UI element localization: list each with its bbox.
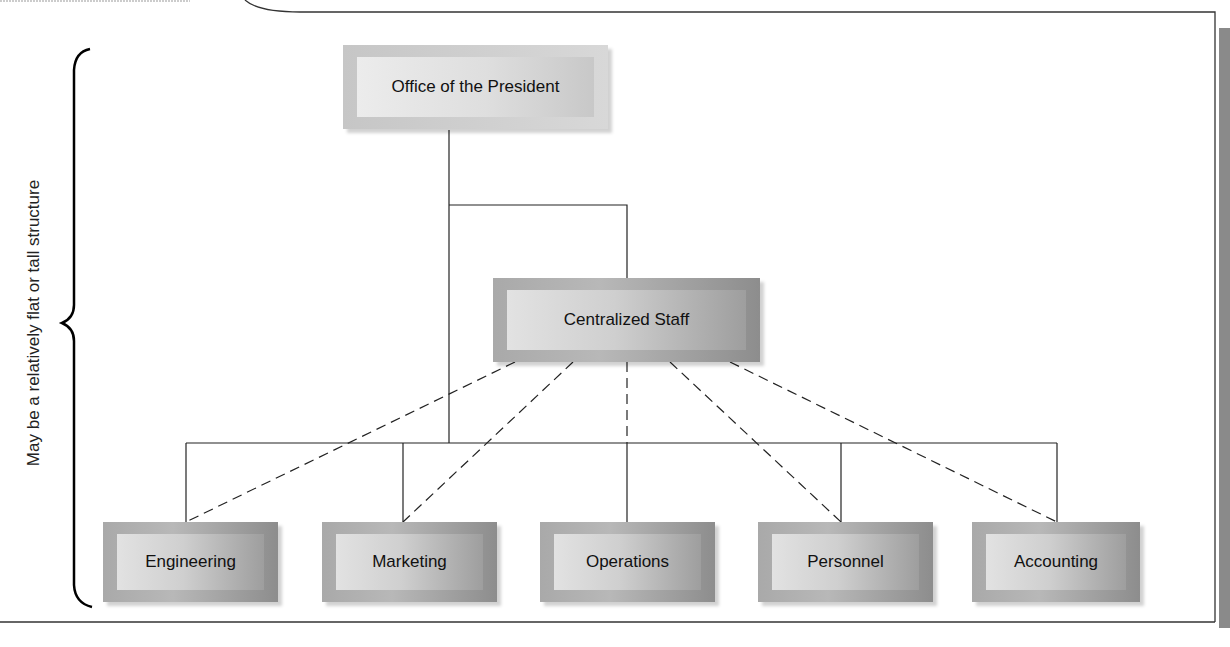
node-centralized-staff: Centralized Staff [493, 278, 760, 362]
structure-note: May be a relatively flat or tall structu… [24, 180, 44, 466]
node-label: Centralized Staff [564, 310, 689, 330]
node-engineering: Engineering [103, 522, 278, 602]
node-marketing: Marketing [322, 522, 497, 602]
node-label: Marketing [372, 552, 447, 572]
brace-icon [62, 49, 92, 607]
node-operations: Operations [540, 522, 715, 602]
node-label: Accounting [1014, 552, 1098, 572]
node-label: Office of the President [392, 77, 560, 97]
node-label: Personnel [807, 552, 884, 572]
node-office-of-the-president: Office of the President [343, 45, 608, 129]
node-label: Engineering [145, 552, 236, 572]
node-label: Operations [586, 552, 669, 572]
staff-relationships [186, 362, 1057, 522]
node-personnel: Personnel [758, 522, 933, 602]
node-accounting: Accounting [972, 522, 1140, 602]
